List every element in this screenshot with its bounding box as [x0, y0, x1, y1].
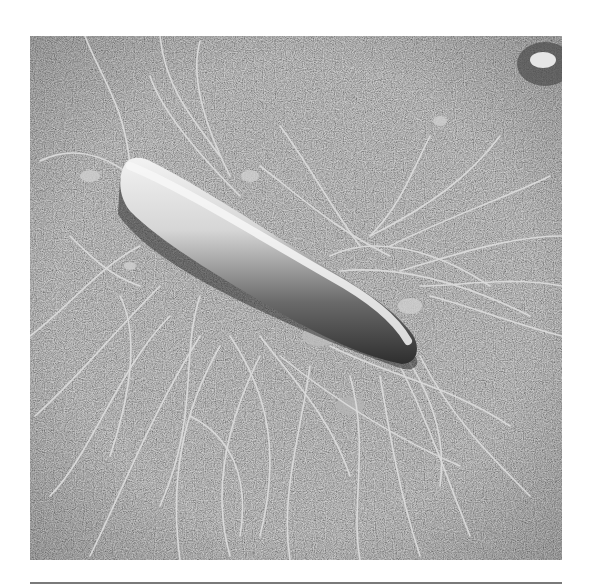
- horizontal-rule: [30, 582, 562, 584]
- micrograph-image: [30, 36, 562, 560]
